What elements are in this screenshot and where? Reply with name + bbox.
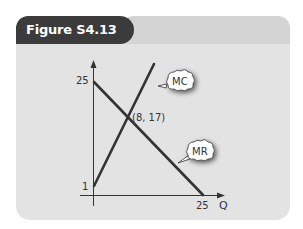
y-tick-1: 1 — [82, 181, 88, 192]
mr-callout: MR — [178, 140, 215, 163]
mr-curve — [94, 82, 203, 195]
x-axis-label: Q — [219, 199, 228, 212]
y-tick-25: 25 — [76, 75, 89, 86]
intersection-label: (8, 17) — [132, 112, 165, 123]
mc-curve — [94, 64, 154, 186]
chart: 25 1 25 Q (8, 17) MC MR — [0, 0, 303, 229]
mc-label: MC — [172, 76, 188, 87]
mr-label: MR — [192, 146, 208, 157]
x-tick-25: 25 — [196, 200, 209, 211]
x-axis-arrow-icon — [217, 193, 225, 199]
mc-callout: MC — [158, 70, 195, 91]
y-axis-arrow-icon — [91, 60, 97, 68]
